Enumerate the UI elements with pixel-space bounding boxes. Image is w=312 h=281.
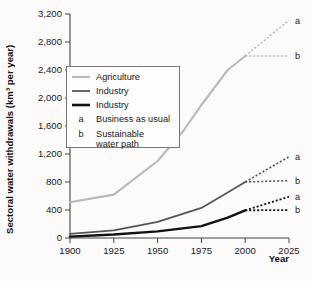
y-tick-label: 2,000 [38, 92, 62, 103]
x-tick-label: 2000 [235, 245, 256, 256]
annotation-a: a [295, 16, 301, 26]
y-tick-label: 1,200 [38, 148, 62, 159]
y-tick-label: 2,800 [38, 36, 62, 47]
legend-label-2: Industry [96, 100, 129, 110]
annotation-b: b [295, 176, 300, 186]
y-axis-title: Sectoral water withdrawals (km³ per year… [4, 45, 15, 234]
chart-legend: AgricultureIndustryIndustryaBusiness as … [67, 67, 180, 150]
y-tick-label: 0 [57, 232, 62, 243]
x-tick-label: 1950 [147, 245, 168, 256]
annotation-b: b [295, 205, 300, 215]
legend-label-4-line1: Sustainable [96, 129, 144, 139]
y-tick-label: 800 [46, 176, 62, 187]
annotation-a: a [295, 152, 301, 162]
legend-label-1: Industry [96, 86, 129, 96]
legend-label-4-line2: water path [95, 139, 139, 149]
y-tick-label: 1,600 [38, 120, 62, 131]
y-tick-label: 400 [46, 204, 62, 215]
legend-label-0: Agriculture [96, 72, 140, 82]
y-tick-label: 3,200 [38, 8, 62, 19]
water-withdrawals-line-chart: Sectoral water withdrawals (km³ per year… [0, 0, 312, 281]
x-tick-label: 1900 [59, 245, 80, 256]
x-tick-label: 1975 [191, 245, 212, 256]
legend-key-a: a [78, 114, 84, 124]
legend-key-b: b [78, 129, 83, 139]
x-tick-label: 1925 [103, 245, 124, 256]
annotation-b: b [295, 51, 300, 61]
chart-figure: Sectoral water withdrawals (km³ per year… [0, 0, 312, 281]
annotation-a: a [295, 192, 301, 202]
x-axis-title: Year [269, 253, 290, 264]
legend-label-3: Business as usual [96, 114, 170, 124]
y-tick-label: 2,400 [38, 64, 62, 75]
